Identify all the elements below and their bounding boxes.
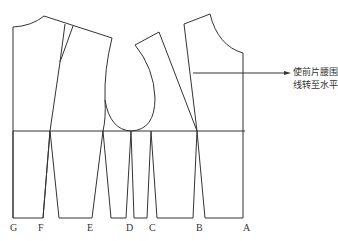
panel-F-E bbox=[50, 131, 103, 218]
point-label-D: D bbox=[126, 223, 133, 233]
side-front-top bbox=[135, 32, 159, 45]
back-neckline bbox=[13, 16, 44, 27]
point-label-C: C bbox=[149, 223, 156, 233]
front-shoulder-line bbox=[184, 14, 210, 24]
point-label-A: A bbox=[243, 223, 250, 233]
point-label-G: G bbox=[10, 223, 17, 233]
armhole-curve bbox=[105, 45, 155, 131]
panel-C-B bbox=[151, 131, 197, 218]
pattern-diagram bbox=[0, 0, 338, 241]
annotation-line-2: 线转至水平 bbox=[293, 79, 338, 92]
panel-D-C bbox=[131, 131, 151, 218]
dart-F-line bbox=[43, 131, 50, 218]
point-label-E: E bbox=[87, 223, 93, 233]
annotation-text: 使前片腰围 线转至水平 bbox=[293, 66, 338, 92]
back-shoulder-line bbox=[44, 16, 112, 38]
point-label-F: F bbox=[38, 223, 44, 233]
annotation-line-1: 使前片腰围 bbox=[293, 66, 338, 79]
arrow-head-icon bbox=[284, 71, 291, 75]
point-label-B: B bbox=[196, 223, 203, 233]
panel-B-A bbox=[197, 131, 243, 218]
back-side-line bbox=[50, 62, 60, 131]
front-neckline bbox=[210, 14, 243, 53]
panel-E-D bbox=[103, 131, 131, 218]
back-shoulder-dart bbox=[60, 24, 73, 62]
